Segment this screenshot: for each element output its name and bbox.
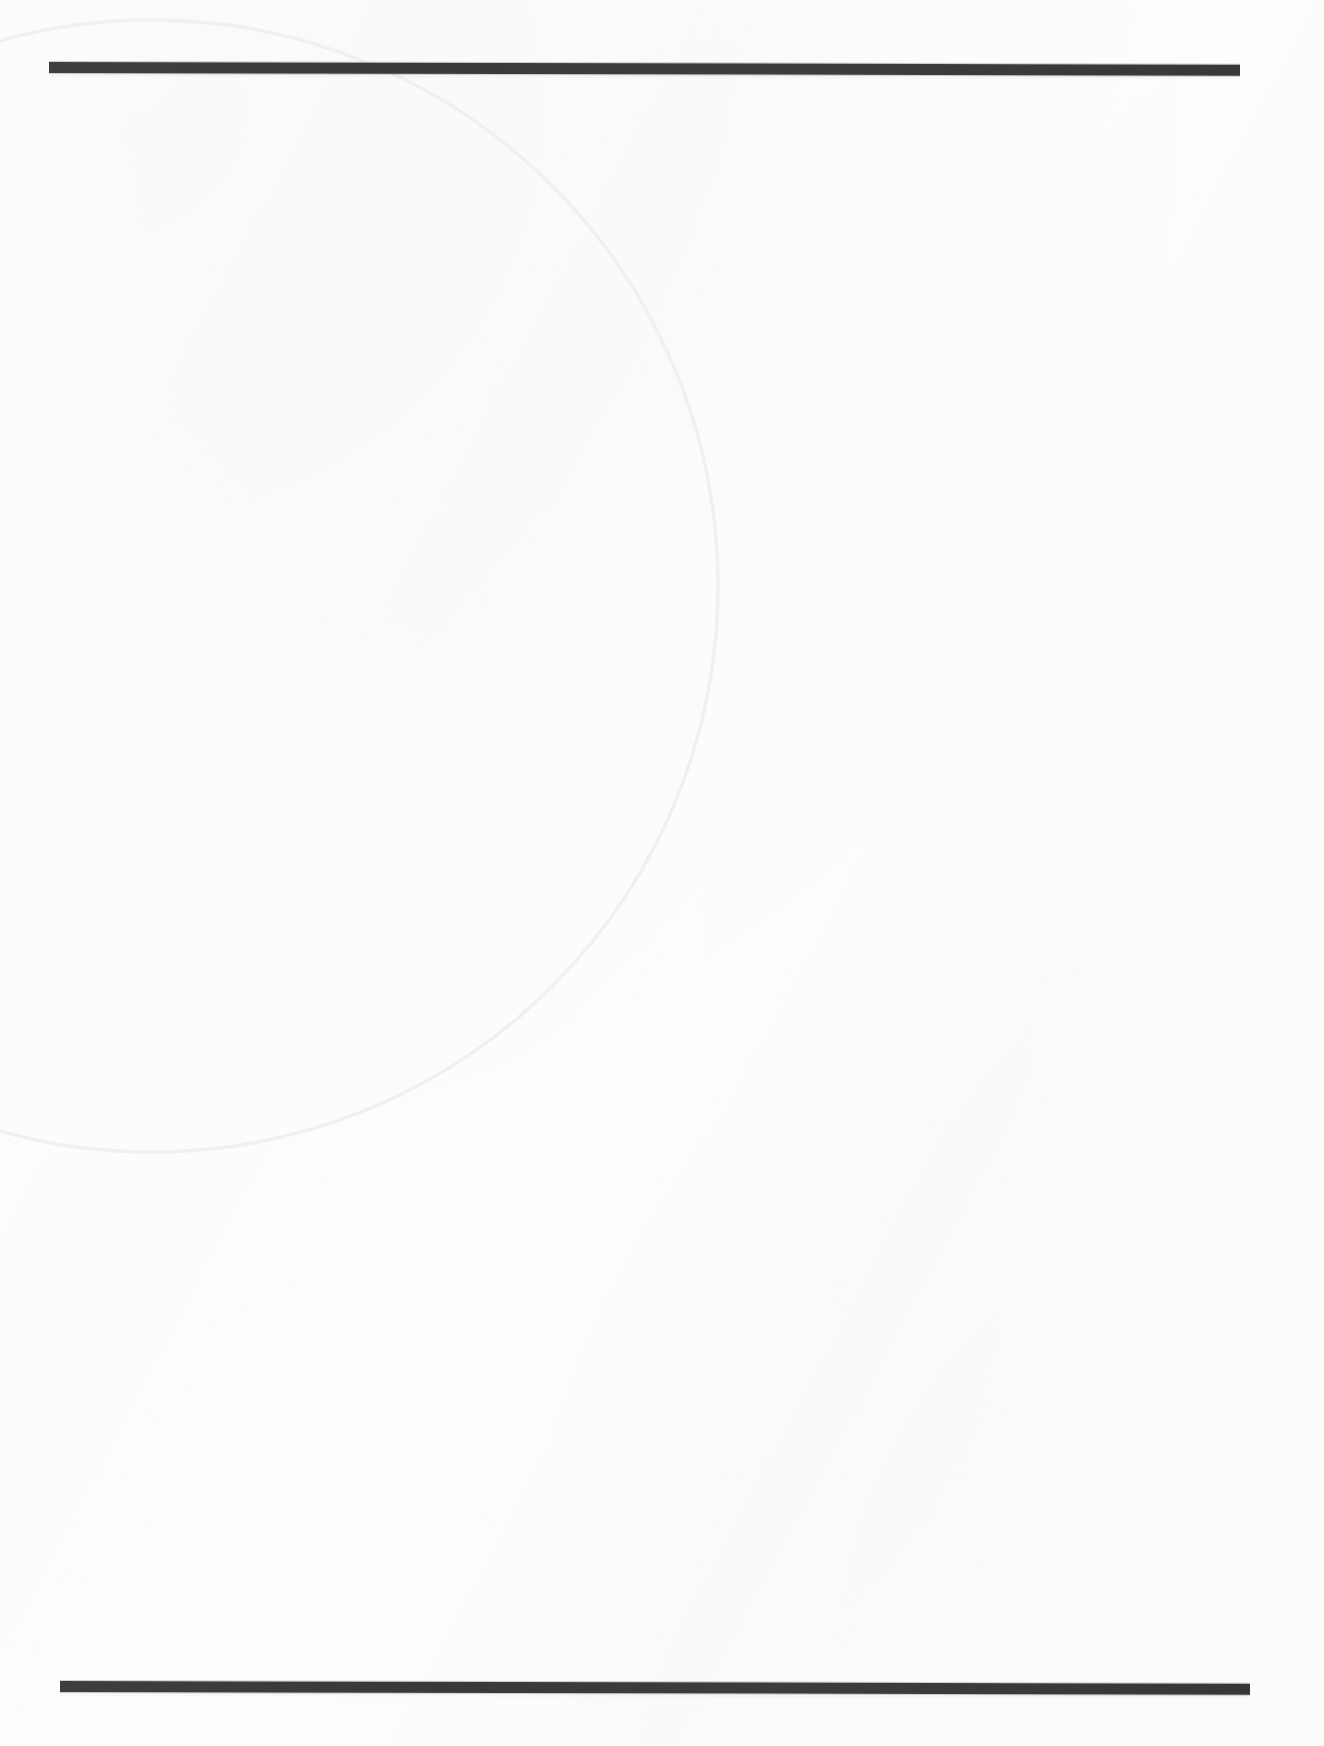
scanned-page — [0, 0, 1324, 1746]
paper-surface — [0, 0, 1324, 1746]
